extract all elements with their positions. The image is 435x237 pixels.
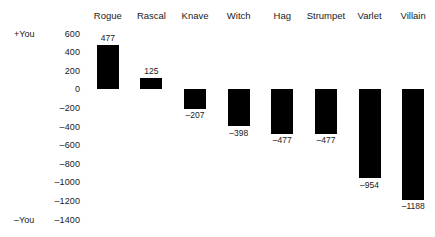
category-label: Rascal — [137, 11, 166, 21]
bar-group: Knave–207 — [173, 0, 217, 237]
bar-value-label: 125 — [144, 67, 158, 76]
category-label: Villain — [401, 11, 426, 21]
bar[interactable] — [271, 89, 293, 133]
category-label: Knave — [182, 11, 209, 21]
bar-group: Strumpet–477 — [304, 0, 348, 237]
bar[interactable] — [140, 78, 162, 90]
bar-value-label: –954 — [360, 181, 379, 190]
bar-group: Witch–398 — [217, 0, 261, 237]
bar-group: Hag–477 — [261, 0, 305, 237]
y-axis-endcap-bottom: –You — [14, 215, 34, 224]
y-axis-tick-label: –600 — [60, 141, 80, 150]
bar-value-label: 477 — [101, 34, 115, 43]
bar[interactable] — [228, 89, 250, 126]
y-axis-tick-label: 0 — [75, 85, 80, 94]
y-axis-tick-label: 200 — [65, 66, 80, 75]
y-axis-tick-label: –400 — [60, 122, 80, 131]
category-label: Hag — [274, 11, 291, 21]
y-axis-tick-label: –1000 — [54, 178, 80, 187]
y-axis: +You –You 6004002000–200–400–600–800–100… — [0, 0, 86, 237]
bar-value-label: –207 — [186, 111, 205, 120]
y-axis-tick-label: –200 — [60, 103, 80, 112]
plot-area: Rogue477Rascal125Knave–207Witch–398Hag–4… — [86, 0, 435, 237]
category-label: Rogue — [94, 11, 122, 21]
bar-value-label: –398 — [229, 129, 248, 138]
bar[interactable] — [97, 45, 119, 89]
bar-group: Varlet–954 — [348, 0, 392, 237]
bar-group: Rogue477 — [86, 0, 130, 237]
category-label: Strumpet — [307, 11, 346, 21]
y-axis-tick-label: –1200 — [54, 196, 80, 205]
bar-value-label: –477 — [316, 136, 335, 145]
y-axis-tick-label: –1400 — [54, 215, 80, 224]
bar[interactable] — [184, 89, 206, 108]
bar-group: Villain–1188 — [391, 0, 435, 237]
category-label: Varlet — [358, 11, 382, 21]
bar[interactable] — [359, 89, 381, 178]
y-axis-endcap-top: +You — [14, 29, 34, 38]
y-axis-tick-label: –800 — [60, 159, 80, 168]
bar-group: Rascal125 — [130, 0, 174, 237]
category-label: Witch — [227, 11, 251, 21]
bar-value-label: –477 — [273, 136, 292, 145]
bar[interactable] — [402, 89, 424, 199]
y-axis-tick-label: 600 — [65, 29, 80, 38]
bar-value-label: –1188 — [402, 202, 425, 211]
bar-chart: +You –You 6004002000–200–400–600–800–100… — [0, 0, 435, 237]
y-axis-tick-label: 400 — [65, 48, 80, 57]
bar[interactable] — [315, 89, 337, 133]
